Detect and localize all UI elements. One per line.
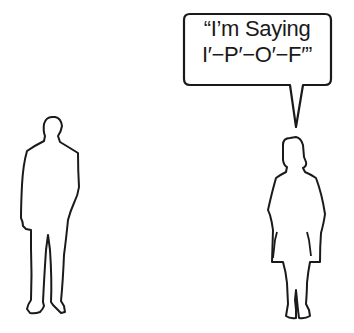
speech-bubble-text: “I’m Saying I′−P′−O′−F′” [184, 16, 330, 68]
man-figure [21, 117, 79, 313]
speech-line-2: I′−P′−O′−F′” [184, 42, 330, 68]
speech-line-1: “I’m Saying [184, 16, 330, 42]
woman-figure [268, 137, 325, 318]
